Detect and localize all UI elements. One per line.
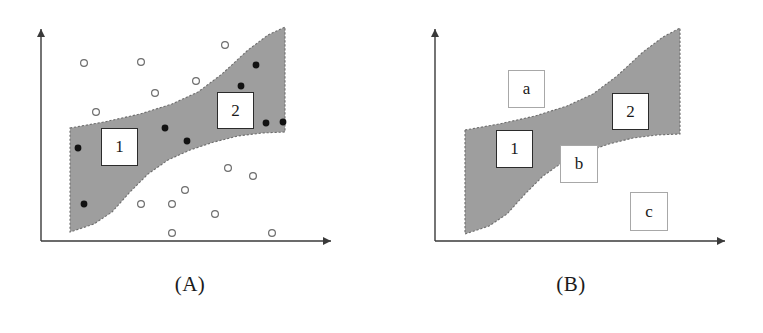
open-circle-point (138, 201, 145, 208)
region-label-b[interactable]: b (560, 145, 598, 183)
open-circle-point (152, 90, 159, 97)
panel-a: 1 2 (A) (0, 0, 381, 333)
open-circle-point (138, 59, 145, 66)
panel-b-caption: (B) (501, 272, 641, 297)
open-circle-point (222, 42, 229, 49)
filled-circle-point (162, 125, 169, 132)
region-label-2[interactable]: 2 (217, 92, 254, 129)
filled-circle-point (253, 62, 260, 69)
figure-container: 1 2 (A) 1 2 a b c (B) (0, 0, 763, 333)
open-circle-point (93, 109, 100, 116)
panel-a-caption: (A) (120, 272, 260, 297)
filled-circle-point (81, 201, 88, 208)
open-circle-point (225, 165, 232, 172)
open-circle-point (169, 230, 176, 237)
open-circle-point (250, 173, 257, 180)
filled-circle-point (184, 138, 191, 145)
open-circle-point (182, 187, 189, 194)
region-label-a[interactable]: a (508, 70, 545, 108)
region-label-1[interactable]: 1 (101, 128, 138, 166)
filled-circle-point (75, 145, 82, 152)
filled-circle-point (263, 120, 270, 127)
region-label-c[interactable]: c (630, 192, 668, 231)
open-circle-point (81, 60, 88, 67)
open-circle-point (212, 211, 219, 218)
panel-b: 1 2 a b c (B) (381, 0, 763, 333)
region-label-2[interactable]: 2 (612, 93, 649, 130)
filled-circle-point (280, 119, 287, 126)
open-circle-point (269, 230, 276, 237)
filled-circle-point (238, 83, 245, 90)
open-circle-point (169, 201, 176, 208)
open-circle-point (193, 78, 200, 85)
region-label-1[interactable]: 1 (496, 130, 533, 168)
